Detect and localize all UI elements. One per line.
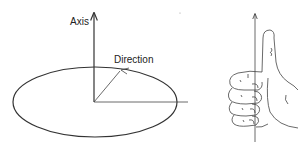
- diagram-canvas: Axis Direction: [0, 0, 307, 146]
- rotation-ellipse-diagram: Axis Direction: [13, 12, 188, 137]
- palm-wrinkle: [285, 95, 288, 104]
- wrist-line: [256, 124, 268, 127]
- finger-index: [230, 71, 262, 90]
- curled-fingers: [228, 71, 262, 126]
- finger-tip-ring: [250, 109, 255, 113]
- knuckle-marks: [240, 74, 248, 122]
- finger-tip-little: [249, 120, 254, 124]
- direction-label: Direction: [114, 54, 153, 65]
- finger-tip-middle: [252, 97, 257, 101]
- stray-dot: [179, 12, 180, 13]
- thumb-crease: [270, 48, 272, 56]
- direction-vector: [94, 71, 120, 102]
- axis-label: Axis: [70, 16, 89, 27]
- right-hand-thumb-diagram: [228, 14, 298, 142]
